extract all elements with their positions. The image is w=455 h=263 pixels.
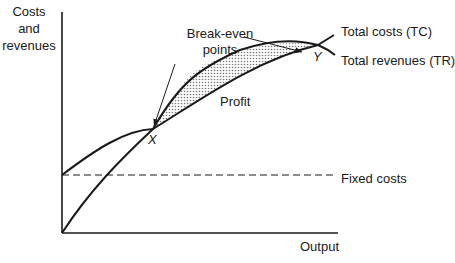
total-revenues-label: Total revenues (TR)	[341, 53, 455, 69]
y-axis-label-line1: Costs	[0, 3, 58, 20]
y-axis-label-line3: revenues	[0, 37, 58, 54]
point-x-label: X	[148, 132, 157, 148]
x-axis-label: Output	[300, 239, 339, 255]
point-y-label: Y	[313, 49, 322, 65]
profit-label: Profit	[217, 94, 253, 110]
fixed-costs-label: Fixed costs	[341, 171, 407, 187]
total-costs-label: Total costs (TC)	[341, 24, 432, 40]
break-even-label-line1: Break-even	[178, 26, 262, 42]
break-even-label: Break-even points	[178, 26, 262, 58]
y-axis-label-line2: and	[0, 20, 58, 37]
y-axis-label: Costs and revenues	[0, 3, 58, 54]
break-even-label-line2: points	[178, 42, 262, 58]
